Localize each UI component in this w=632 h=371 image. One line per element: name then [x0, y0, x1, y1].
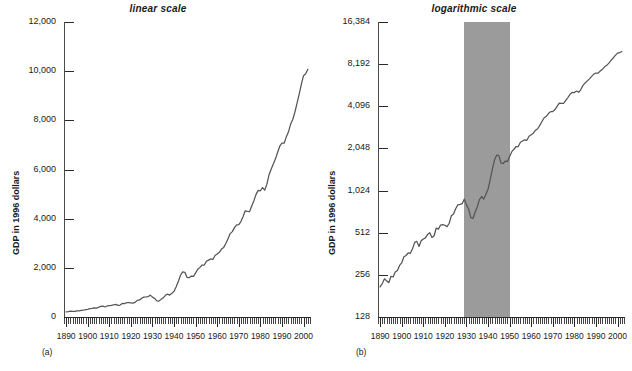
x-tick-minor — [230, 318, 231, 324]
x-tick-minor — [122, 318, 123, 324]
x-tick-minor — [497, 318, 498, 324]
x-tick-minor — [291, 318, 292, 324]
x-tick-minor — [587, 318, 588, 324]
x-tick-minor — [404, 318, 405, 324]
x-tick-minor — [70, 318, 71, 324]
x-tick-minor — [436, 318, 437, 324]
x-tick-minor — [449, 318, 450, 324]
x-tick-minor — [441, 318, 442, 324]
x-tick-minor — [479, 318, 480, 324]
x-tick-minor — [271, 318, 272, 324]
x-tick-minor — [273, 318, 274, 324]
x-tick-minor — [514, 318, 515, 324]
x-tick-minor — [165, 318, 166, 324]
x-tick-minor — [258, 318, 259, 324]
x-tick-minor — [269, 318, 270, 324]
x-tick-label: 2000 — [289, 331, 319, 341]
x-tick-minor — [275, 318, 276, 324]
x-tick-minor — [73, 318, 74, 324]
x-tick-minor — [523, 318, 524, 324]
x-tick-minor — [397, 318, 398, 324]
x-tick-major — [596, 318, 597, 327]
x-tick-minor — [529, 318, 530, 324]
x-tick-minor — [157, 318, 158, 324]
x-tick-minor — [90, 318, 91, 324]
x-tick-minor — [438, 318, 439, 324]
x-tick-major — [260, 318, 261, 327]
x-tick-minor — [607, 318, 608, 324]
x-tick-minor — [247, 318, 248, 324]
x-tick-minor — [536, 318, 537, 324]
x-tick-minor — [484, 318, 485, 324]
x-tick-minor — [120, 318, 121, 324]
x-tick-minor — [602, 318, 603, 324]
x-tick-minor — [101, 318, 102, 324]
x-tick-minor — [163, 318, 164, 324]
x-tick-minor — [301, 318, 302, 324]
x-tick-minor — [568, 318, 569, 324]
x-tick-minor — [254, 318, 255, 324]
x-tick-minor — [600, 318, 601, 324]
x-tick-minor — [176, 318, 177, 324]
x-tick-minor — [464, 318, 465, 324]
x-tick-minor — [518, 318, 519, 324]
x-tick-minor — [447, 318, 448, 324]
x-tick-minor — [592, 318, 593, 324]
x-tick-label: 2000 — [603, 331, 632, 341]
x-tick-minor — [140, 318, 141, 324]
x-tick-minor — [620, 318, 621, 324]
x-tick-minor — [548, 318, 549, 324]
x-tick-minor — [215, 318, 216, 324]
x-tick-minor — [267, 318, 268, 324]
x-tick-minor — [389, 318, 390, 324]
x-tick-minor — [146, 318, 147, 324]
x-tick-minor — [245, 318, 246, 324]
x-tick-minor — [224, 318, 225, 324]
x-tick-minor — [443, 318, 444, 324]
x-tick-minor — [193, 318, 194, 324]
x-tick-minor — [594, 318, 595, 324]
x-tick-major — [109, 318, 110, 327]
x-tick-minor — [492, 318, 493, 324]
x-tick-minor — [538, 318, 539, 324]
x-tick-minor — [293, 318, 294, 324]
x-tick-minor — [178, 318, 179, 324]
x-tick-minor — [295, 318, 296, 324]
x-tick-minor — [219, 318, 220, 324]
x-tick-minor — [581, 318, 582, 324]
x-tick-major — [531, 318, 532, 327]
x-tick-major — [217, 318, 218, 327]
x-tick-minor — [133, 318, 134, 324]
x-tick-major — [574, 318, 575, 327]
x-tick-minor — [460, 318, 461, 324]
plot-area-log — [316, 0, 632, 371]
x-tick-minor — [395, 318, 396, 324]
x-tick-minor — [250, 318, 251, 324]
x-tick-minor — [284, 318, 285, 324]
gdp-line-linear — [0, 0, 316, 371]
x-tick-minor — [234, 318, 235, 324]
x-tick-minor — [408, 318, 409, 324]
x-tick-minor — [232, 318, 233, 324]
x-tick-minor — [454, 318, 455, 324]
panel-linear-scale: linear scale GDP in 1996 dollars 02,0004… — [0, 0, 316, 371]
x-tick-minor — [200, 318, 201, 324]
x-tick-minor — [198, 318, 199, 324]
x-tick-minor — [187, 318, 188, 324]
x-tick-minor — [471, 318, 472, 324]
x-tick-minor — [299, 318, 300, 324]
x-tick-minor — [308, 318, 309, 324]
panel-caption-a: (a) — [42, 347, 52, 357]
x-tick-minor — [624, 318, 625, 324]
x-tick-minor — [482, 318, 483, 324]
x-tick-minor — [512, 318, 513, 324]
x-tick-minor — [421, 318, 422, 324]
x-tick-minor — [183, 318, 184, 324]
x-tick-minor — [213, 318, 214, 324]
x-tick-minor — [148, 318, 149, 324]
x-tick-minor — [237, 318, 238, 324]
x-tick-minor — [570, 318, 571, 324]
x-tick-minor — [252, 318, 253, 324]
x-tick-minor — [473, 318, 474, 324]
x-tick-minor — [241, 318, 242, 324]
